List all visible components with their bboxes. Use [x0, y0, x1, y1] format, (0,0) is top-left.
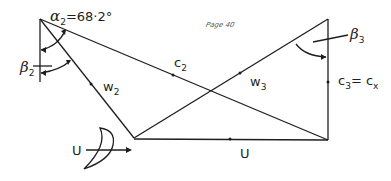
velocity-triangle-diagram — [0, 0, 391, 181]
w3-marker — [239, 72, 242, 75]
w2-subscript: 2 — [114, 87, 120, 97]
w3-subscript: 3 — [261, 82, 267, 92]
beta3-subscript: 3 — [359, 35, 365, 45]
c2-label: c2 — [174, 56, 187, 73]
alpha2-arrow — [41, 47, 46, 53]
beta2-label: β2 — [20, 60, 34, 78]
arrow-right-icon — [126, 147, 132, 153]
c3-marker — [327, 81, 330, 84]
w2-marker — [90, 83, 93, 86]
alpha2-label: α2=68·2° — [50, 9, 112, 27]
beta-symbol: β — [350, 25, 359, 43]
beta3-leader — [313, 35, 348, 42]
beta2-subscript: 2 — [29, 68, 35, 78]
alpha-symbol: α — [50, 7, 60, 25]
cx-subscript: x — [373, 81, 378, 91]
w2-main: w — [103, 79, 114, 94]
beta-symbol: β — [20, 58, 29, 76]
alpha2-arc — [41, 31, 65, 50]
w2-label: w2 — [103, 80, 119, 97]
beta2-arrow — [41, 70, 46, 76]
c2-subscript: 2 — [181, 63, 187, 73]
u-bottom-label: U — [240, 147, 250, 160]
c2-vector — [40, 19, 328, 140]
c3-equals: = c — [351, 73, 373, 88]
rotor-blade-icon — [84, 128, 113, 169]
beta3-arrow — [321, 54, 326, 60]
w3-main: w — [250, 74, 261, 89]
c3-cx-label: c3= cx — [338, 74, 378, 91]
handwritten-note: Page 40 — [205, 21, 235, 29]
c2-marker — [172, 74, 175, 77]
alpha2-value: =68·2° — [66, 9, 112, 24]
u-blade-label: U — [72, 144, 82, 157]
beta3-label: β3 — [350, 27, 364, 45]
w3-vector — [134, 19, 328, 138]
u-marker — [229, 138, 232, 141]
w3-label: w3 — [250, 75, 266, 92]
w2-vector — [40, 19, 134, 138]
